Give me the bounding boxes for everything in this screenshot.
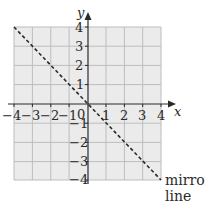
y-tick-label: −2 xyxy=(69,135,88,150)
x-tick-label: −2 xyxy=(40,108,59,123)
x-tick-label: 2 xyxy=(120,108,128,123)
y-tick-label: 1 xyxy=(76,77,84,92)
y-axis-label: y xyxy=(76,5,85,20)
y-tick-label: 3 xyxy=(75,39,83,54)
coordinate-diagram: x −4 −3 −2 −1 0 1 2 3 4 xyxy=(0,0,205,204)
x-tick-label: 3 xyxy=(138,108,146,123)
x-tick-label: −3 xyxy=(21,108,40,123)
y-tick-label: 4 xyxy=(75,20,83,35)
y-tick-label: −3 xyxy=(69,154,88,169)
mirror-line-label: mirror xyxy=(165,172,205,188)
y-tick-label: 2 xyxy=(75,58,83,73)
y-axis-arrow-icon xyxy=(85,12,92,20)
x-tick-label: 4 xyxy=(157,108,165,123)
y-tick-label: −1 xyxy=(69,116,88,131)
x-tick-label: −4 xyxy=(2,108,21,123)
mirror-line-label-2: line xyxy=(165,188,191,204)
x-axis-label: x xyxy=(174,104,182,119)
y-tick-label: −4 xyxy=(69,172,88,187)
